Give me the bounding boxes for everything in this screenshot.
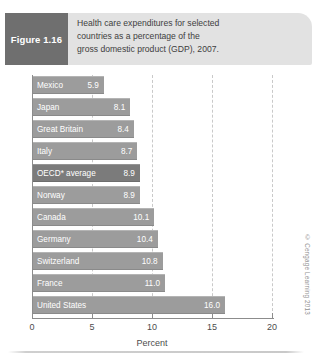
credit-wrapper: © Cengage Learning 2013 bbox=[304, 234, 314, 344]
bar-category-label: Norway bbox=[37, 187, 65, 205]
bar-value-label: 10.4 bbox=[137, 231, 153, 249]
bar-category-label: Canada bbox=[37, 209, 66, 227]
bar-value-label: 8.4 bbox=[117, 121, 128, 139]
bar-row: Great Britain8.4 bbox=[33, 120, 134, 138]
bar-row: Italy8.7 bbox=[33, 142, 137, 160]
figure-caption-line-1: Health care expenditures for selected bbox=[77, 17, 305, 30]
x-axis-title: Percent bbox=[136, 338, 167, 348]
x-axis-line bbox=[32, 318, 274, 319]
figure-number-label: Figure 1.16 bbox=[11, 34, 62, 45]
bar-value-label: 5.9 bbox=[87, 77, 98, 95]
x-tick-label-0: 0 bbox=[29, 322, 34, 332]
bar-value-label: 10.1 bbox=[133, 209, 149, 227]
bar-chart-plot-area: Mexico5.9Japan8.1Great Britain8.4Italy8.… bbox=[0, 72, 317, 322]
bar-oecd-average: OECD* average8.9 bbox=[33, 164, 140, 182]
figure-header-band: Figure 1.16 Health care expenditures for… bbox=[5, 13, 312, 65]
x-tick-mark-20 bbox=[272, 313, 273, 318]
bar-category-label: Germany bbox=[37, 231, 71, 249]
bar-row: France11.0 bbox=[33, 274, 165, 292]
bar-great-britain: Great Britain8.4 bbox=[33, 120, 134, 138]
x-tick-label-10: 10 bbox=[147, 322, 157, 332]
bar-italy: Italy8.7 bbox=[33, 142, 137, 160]
bottom-divider bbox=[8, 351, 304, 353]
bar-norway: Norway8.9 bbox=[33, 186, 140, 204]
figure-number-box: Figure 1.16 bbox=[5, 13, 68, 65]
bar-japan: Japan8.1 bbox=[33, 98, 130, 116]
bar-category-label: France bbox=[37, 275, 62, 293]
bar-row: Switzerland10.8 bbox=[33, 252, 163, 270]
bar-canada: Canada10.1 bbox=[33, 208, 154, 226]
x-tick-label-20: 20 bbox=[267, 322, 277, 332]
bar-value-label: 11.0 bbox=[145, 275, 160, 293]
bar-category-label: Switzerland bbox=[37, 253, 79, 271]
bar-mexico: Mexico5.9 bbox=[33, 76, 104, 94]
bar-category-label: United States bbox=[37, 297, 86, 315]
bar-value-label: 8.9 bbox=[123, 187, 134, 205]
figure-caption-line-3: gross domestic product (GDP), 2007. bbox=[77, 43, 305, 56]
bar-switzerland: Switzerland10.8 bbox=[33, 252, 163, 270]
copyright-credit: © Cengage Learning 2013 bbox=[304, 234, 311, 315]
bar-value-label: 10.8 bbox=[142, 253, 158, 271]
bar-united-states: United States16.0 bbox=[33, 296, 225, 314]
bar-row: Norway8.9 bbox=[33, 186, 140, 204]
bar-category-label: Great Britain bbox=[37, 121, 83, 139]
bar-category-label: Italy bbox=[37, 143, 52, 161]
x-tick-mark-10 bbox=[152, 313, 153, 318]
bar-row: OECD* average8.9 bbox=[33, 164, 140, 182]
bar-value-label: 8.1 bbox=[114, 99, 125, 117]
bar-value-label: 8.9 bbox=[123, 165, 134, 183]
x-tick-mark-0 bbox=[32, 313, 33, 318]
x-tick-mark-5 bbox=[92, 313, 93, 318]
figure-caption-line-2: countries as a percentage of the bbox=[77, 30, 305, 43]
bar-row: Japan8.1 bbox=[33, 98, 130, 116]
bar-row: Mexico5.9 bbox=[33, 76, 104, 94]
bar-row: Canada10.1 bbox=[33, 208, 154, 226]
figure-caption: Health care expenditures for selected co… bbox=[77, 17, 305, 57]
bar-row: United States16.0 bbox=[33, 296, 225, 314]
bar-category-label: Japan bbox=[37, 99, 59, 117]
x-tick-mark-15 bbox=[212, 313, 213, 318]
bar-category-label: OECD* average bbox=[37, 165, 96, 183]
bar-france: France11.0 bbox=[33, 274, 165, 292]
bar-value-label: 8.7 bbox=[121, 143, 132, 161]
bars-layer: Mexico5.9Japan8.1Great Britain8.4Italy8.… bbox=[0, 72, 317, 322]
bar-germany: Germany10.4 bbox=[33, 230, 158, 248]
bar-row: Germany10.4 bbox=[33, 230, 158, 248]
bar-category-label: Mexico bbox=[37, 77, 63, 95]
x-tick-label-5: 5 bbox=[89, 322, 94, 332]
x-tick-label-15: 15 bbox=[207, 322, 217, 332]
